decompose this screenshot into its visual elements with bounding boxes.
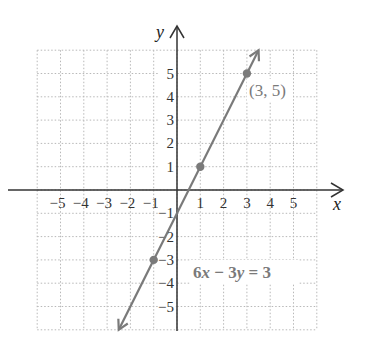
y-tick-label: −1 — [158, 205, 174, 221]
x-tick-label: −2 — [119, 195, 135, 211]
eq-end: = 3 — [244, 263, 271, 282]
y-tick-label: 5 — [167, 66, 175, 82]
axes — [8, 26, 343, 331]
y-tick-label: 3 — [167, 112, 175, 128]
data-point — [196, 163, 204, 171]
x-tick-label: 1 — [197, 195, 205, 211]
x-tick-label: −3 — [96, 195, 112, 211]
x-tick-label: −4 — [73, 195, 89, 211]
y-tick-label: 2 — [167, 135, 175, 151]
y-tick-label: −4 — [158, 275, 174, 291]
y-tick-label: 1 — [167, 159, 175, 175]
eq-var-x: x — [201, 263, 211, 282]
coordinate-plane: −5−4−3−2−112345−5−4−3−2−112345 (3, 5) 6x… — [0, 0, 367, 352]
y-tick-label: −5 — [158, 299, 174, 315]
eq-mid: − 3 — [210, 263, 237, 282]
eq-coef: 6 — [193, 263, 202, 282]
x-tick-label: −1 — [143, 195, 159, 211]
x-tick-label: 2 — [220, 195, 228, 211]
x-tick-label: 4 — [266, 195, 274, 211]
y-tick-label: −3 — [158, 252, 174, 268]
x-tick-label: 5 — [290, 195, 298, 211]
x-axis-label: x — [332, 194, 341, 214]
eq-var-y: y — [235, 263, 245, 282]
y-axis-label: y — [154, 22, 164, 42]
annotations: (3, 5) 6x − 3y = 3 — [190, 79, 298, 284]
chart-stage: −5−4−3−2−112345−5−4−3−2−112345 (3, 5) 6x… — [0, 0, 367, 352]
point-label: (3, 5) — [249, 81, 286, 100]
data-point — [150, 256, 158, 264]
y-tick-label: 4 — [167, 89, 175, 105]
x-tick-label: −5 — [50, 195, 66, 211]
equation-label: 6x − 3y = 3 — [193, 263, 271, 282]
data-point — [243, 69, 251, 77]
x-tick-label: 3 — [243, 195, 251, 211]
